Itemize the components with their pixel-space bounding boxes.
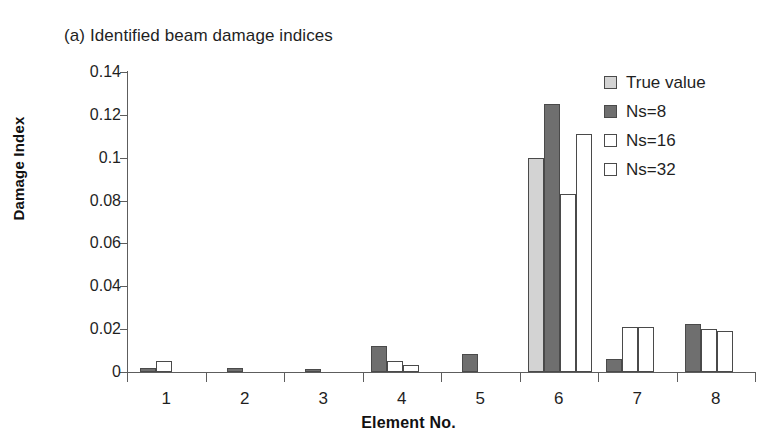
legend-label-ns32: Ns=32 xyxy=(626,160,676,180)
legend-swatch-ns8 xyxy=(604,105,617,118)
legend-item-true: True value xyxy=(604,68,764,97)
x-tick-mark xyxy=(598,373,599,382)
bar-6-ns32 xyxy=(576,134,592,372)
bar-3-ns8 xyxy=(305,369,321,372)
y-tick-mark xyxy=(120,372,127,373)
bar-2-ns8 xyxy=(227,368,243,372)
legend-item-ns32: Ns=32 xyxy=(604,155,764,184)
legend-label-ns16: Ns=16 xyxy=(626,131,676,151)
x-tick-mark xyxy=(127,373,128,382)
x-tick-group: 12345678 xyxy=(127,373,756,413)
y-tick-mark xyxy=(120,158,127,159)
legend-swatch-ns32 xyxy=(604,163,617,176)
y-tick-mark xyxy=(120,72,127,73)
x-tick-label: 5 xyxy=(476,389,485,409)
x-tick-mark xyxy=(363,373,364,382)
x-tick-mark xyxy=(520,373,521,382)
x-tick-mark xyxy=(284,373,285,382)
bar-4-ns32 xyxy=(403,365,419,373)
x-tick-label: 7 xyxy=(633,389,642,409)
bar-7-ns32 xyxy=(638,327,654,372)
bar-7-ns16 xyxy=(622,327,638,372)
y-tick-label: 0.02 xyxy=(90,319,121,338)
bar-1-ns32 xyxy=(156,361,172,372)
bar-7-ns8 xyxy=(606,359,622,372)
bar-4-ns8 xyxy=(371,346,387,372)
y-tick-mark xyxy=(120,286,127,287)
x-tick-mark xyxy=(441,373,442,382)
bar-8-ns16 xyxy=(701,329,717,372)
bar-6-true xyxy=(528,158,544,372)
legend-label-true: True value xyxy=(626,73,706,93)
x-tick-label: 3 xyxy=(319,389,328,409)
legend-label-ns8: Ns=8 xyxy=(626,102,666,122)
y-tick-label: 0.04 xyxy=(90,276,121,295)
x-tick-label: 1 xyxy=(162,389,171,409)
y-tick-mark xyxy=(120,329,127,330)
y-tick-label: 0.06 xyxy=(90,233,121,252)
bar-8-ns8 xyxy=(685,324,701,372)
y-tick-mark xyxy=(120,243,127,244)
x-tick-mark xyxy=(755,373,756,382)
bar-4-ns16 xyxy=(387,361,403,372)
y-tick-label: 0.14 xyxy=(90,62,121,81)
y-tick-label: 0 xyxy=(112,362,121,381)
bar-5-ns8 xyxy=(462,354,478,372)
y-tick-mark xyxy=(120,115,127,116)
y-tick-mark xyxy=(120,201,127,202)
x-tick-label: 2 xyxy=(240,389,249,409)
legend-item-ns8: Ns=8 xyxy=(604,97,764,126)
x-tick-label: 6 xyxy=(554,389,563,409)
y-tick-label: 0.08 xyxy=(90,191,121,210)
legend-item-ns16: Ns=16 xyxy=(604,126,764,155)
x-tick-label: 8 xyxy=(711,389,720,409)
x-tick-label: 4 xyxy=(397,389,406,409)
bar-6-ns16 xyxy=(560,194,576,372)
bar-6-ns8 xyxy=(544,104,560,372)
x-axis-title: Element No. xyxy=(0,414,767,432)
legend: True valueNs=8Ns=16Ns=32 xyxy=(604,68,764,184)
x-tick-mark xyxy=(677,373,678,382)
y-axis-title: Damage Index xyxy=(10,116,27,220)
y-tick-label: 0.12 xyxy=(90,105,121,124)
y-tick-label: 0.1 xyxy=(99,148,121,167)
legend-swatch-ns16 xyxy=(604,134,617,147)
x-axis-title-text: Element No. xyxy=(361,414,456,431)
x-tick-mark xyxy=(206,373,207,382)
bar-8-ns32 xyxy=(717,331,733,372)
bar-1-ns8 xyxy=(140,368,156,372)
figure-caption: (a) Identified beam damage indices xyxy=(64,26,333,46)
figure-panel: (a) Identified beam damage indices Damag… xyxy=(0,0,767,442)
legend-swatch-true xyxy=(604,76,617,89)
